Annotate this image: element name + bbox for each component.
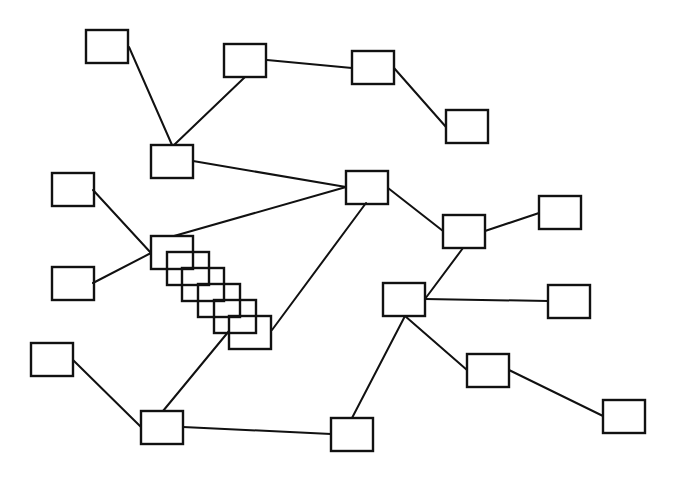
node-box-n7 [346,171,388,204]
node-box-n11 [383,283,425,316]
node-box-n2 [224,44,266,77]
edge-n6-s1 [93,190,151,253]
node-box-n12 [548,285,590,318]
edge-n7-n9 [388,188,443,231]
edge-n11-n12 [425,299,548,301]
edge-n16-n17 [183,427,331,434]
edge-n13-n16 [73,360,141,427]
diagram-canvas [0,0,679,477]
node-box-n6 [52,173,94,206]
edge-n2-n3 [267,60,352,68]
node-box-n4 [446,110,488,143]
node-box-n17 [331,418,373,451]
edge-s1-n7 [174,187,346,236]
network-graph [0,0,679,477]
edge-n2-n5 [174,77,245,145]
edge-n9-n11 [425,248,463,299]
node-box-n14 [467,354,509,387]
edge-n14-n15 [509,370,603,416]
node-box-n3 [352,51,394,84]
edge-n5-n7 [193,161,346,187]
node-box-n9 [443,215,485,248]
edge-n1-n5 [129,47,172,145]
node-box-n13 [31,343,73,376]
node-box-n15 [603,400,645,433]
edge-n11-n17 [352,316,405,418]
node-box-n10 [52,267,94,300]
node-box-n16 [141,411,183,444]
edges-layer [73,47,603,434]
edge-n11-n14 [405,316,467,370]
node-box-n1 [86,30,128,63]
edge-s6-n16 [163,331,229,411]
node-box-n5 [151,145,193,178]
node-box-n8 [539,196,581,229]
edge-n3-n4 [394,68,446,127]
edge-n10-s1 [93,253,151,283]
edge-s6-n7 [272,203,366,330]
edge-n9-n8 [485,213,539,231]
